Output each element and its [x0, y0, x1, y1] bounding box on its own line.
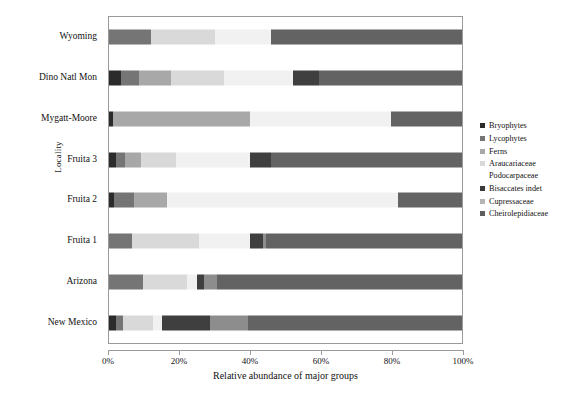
x-axis-tick — [392, 350, 393, 355]
y-axis-label: New Mexico — [48, 317, 97, 327]
legend-swatch-icon — [480, 199, 485, 204]
legend-swatch-icon — [480, 123, 485, 128]
bars-container — [109, 17, 462, 343]
bar-segment — [109, 234, 132, 249]
x-axis-tick — [321, 350, 322, 355]
bar-segment — [293, 71, 319, 86]
bar-row — [109, 234, 462, 249]
bar-segment — [204, 274, 216, 289]
legend-item: Bryophytes — [480, 120, 584, 132]
x-axis-label: 60% — [313, 356, 330, 366]
bar-row — [109, 193, 462, 208]
bar-row — [109, 30, 462, 45]
chart-legend: BryophytesLycophytesFernsAraucariaceaePo… — [480, 120, 584, 221]
y-axis-label: Mygatt-Moore — [41, 113, 97, 123]
y-axis-label: Fruita 3 — [67, 154, 97, 164]
bar-segment — [271, 152, 462, 167]
legend-item: Bisaccates indet — [480, 183, 584, 195]
x-axis-label: 20% — [171, 356, 188, 366]
bar-segment — [141, 152, 176, 167]
bar-segment — [176, 152, 250, 167]
bar-segment — [224, 71, 293, 86]
bar-segment — [139, 71, 171, 86]
legend-label: Lycophytes — [489, 133, 527, 145]
legend-swatch-icon — [480, 211, 485, 216]
y-axis-label: Fruita 1 — [67, 235, 97, 245]
bar-segment — [116, 315, 123, 330]
bar-segment — [171, 71, 224, 86]
bar-segment — [121, 71, 139, 86]
legend-swatch-icon — [480, 149, 485, 154]
bar-segment — [250, 111, 391, 126]
legend-label-line2: Podocarpaceae — [489, 170, 538, 182]
y-axis-tick-labels: New MexicoArizonaFruita 1Fruita 2Fruita … — [0, 16, 103, 344]
bar-segment — [210, 315, 249, 330]
legend-item: Cupressaceae — [480, 196, 584, 208]
legend-item: AraucariaceaePodocarpaceae — [480, 158, 584, 181]
y-axis-label: Arizona — [66, 276, 97, 286]
bar-segment — [132, 234, 199, 249]
x-axis-label: 100% — [453, 356, 474, 366]
legend-item: Lycophytes — [480, 133, 584, 145]
bar-segment — [248, 315, 462, 330]
legend-label: Cupressaceae — [489, 196, 534, 208]
bar-segment — [391, 111, 462, 126]
x-axis-label: 0% — [102, 356, 114, 366]
bar-segment — [250, 152, 271, 167]
legend-swatch-icon — [480, 161, 485, 166]
bar-segment — [134, 193, 168, 208]
x-axis-tick — [463, 350, 464, 355]
legend-label: Cheirolepidiaceae — [489, 208, 548, 220]
bar-row — [109, 274, 462, 289]
bar-segment — [109, 152, 116, 167]
bar-segment — [143, 274, 187, 289]
x-axis-label: 80% — [384, 356, 401, 366]
y-axis-label: Dino Natl Mon — [39, 72, 97, 82]
bar-row — [109, 71, 462, 86]
bar-segment — [109, 274, 143, 289]
bar-row — [109, 111, 462, 126]
legend-swatch-icon — [480, 186, 485, 191]
x-axis-tick — [108, 350, 109, 355]
legend-label: AraucariaceaePodocarpaceae — [489, 158, 538, 181]
x-axis-line — [108, 350, 463, 351]
bar-segment — [109, 71, 121, 86]
bar-segment — [266, 234, 462, 249]
x-axis-title: Relative abundance of major groups — [108, 370, 463, 381]
legend-swatch-icon — [480, 136, 485, 141]
bar-segment — [153, 315, 162, 330]
bar-segment — [250, 234, 262, 249]
bar-segment — [187, 274, 198, 289]
bar-segment — [167, 193, 398, 208]
legend-label: Ferns — [489, 146, 507, 158]
bar-row — [109, 315, 462, 330]
x-axis-tick — [179, 350, 180, 355]
bar-segment — [162, 315, 210, 330]
bar-segment — [319, 71, 462, 86]
bar-segment — [109, 315, 116, 330]
bar-segment — [113, 111, 251, 126]
bar-segment — [271, 30, 462, 45]
legend-item: Ferns — [480, 146, 584, 158]
bar-segment — [197, 274, 204, 289]
bar-row — [109, 152, 462, 167]
bar-segment — [199, 234, 250, 249]
bar-segment — [151, 30, 215, 45]
legend-label: Bryophytes — [489, 120, 527, 132]
bar-segment — [123, 315, 153, 330]
stacked-bar-chart: Locality New MexicoArizonaFruita 1Fruita… — [0, 0, 584, 393]
bar-segment — [109, 30, 151, 45]
y-axis-label: Fruita 2 — [67, 194, 97, 204]
bar-segment — [398, 193, 462, 208]
bar-segment — [215, 30, 271, 45]
y-axis-label: Wyoming — [60, 31, 97, 41]
legend-label: Bisaccates indet — [489, 183, 542, 195]
bar-segment — [114, 193, 133, 208]
bar-segment — [125, 152, 141, 167]
legend-item: Cheirolepidiaceae — [480, 208, 584, 220]
bar-segment — [116, 152, 125, 167]
bar-segment — [217, 274, 462, 289]
x-axis-label: 40% — [242, 356, 259, 366]
x-axis-tick — [250, 350, 251, 355]
